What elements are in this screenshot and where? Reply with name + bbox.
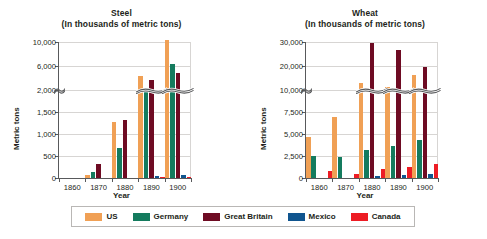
- legend-label: Canada: [372, 212, 401, 221]
- y-tick-label: 0: [52, 174, 56, 183]
- chart-page: Steel (In thousands of metric tons) Metr…: [0, 0, 487, 239]
- y-tick-label: 7,500: [284, 108, 303, 117]
- x-tick-mark: [306, 178, 307, 182]
- y-tick-label: 1,500: [37, 108, 56, 117]
- x-tick-mark: [59, 178, 60, 182]
- bar-mexico[interactable]: [181, 175, 186, 178]
- y-tick-label: 10,000: [33, 38, 56, 47]
- chart-title-steel: Steel (In thousands of metric tons): [0, 8, 243, 30]
- x-tick-mark: [85, 178, 86, 182]
- chart-legend: USGermanyGreat BritainMexicoCanada: [71, 206, 415, 227]
- legend-item-us[interactable]: US: [85, 212, 117, 221]
- y-tick-label: 6,000: [37, 62, 56, 71]
- x-tick-mark: [438, 178, 439, 182]
- legend-label: US: [106, 212, 117, 221]
- chart-title-wheat-line1: Wheat: [352, 8, 378, 18]
- legend-item-mexico[interactable]: Mexico: [288, 212, 336, 221]
- legend-item-germany[interactable]: Germany: [133, 212, 189, 221]
- y-tick-label: 1,000: [37, 130, 56, 139]
- y-tick-label: 30,000: [280, 38, 303, 47]
- bar-germany[interactable]: [417, 140, 422, 178]
- legend-swatch: [85, 213, 102, 221]
- bar-axis-break-icon: [162, 87, 194, 94]
- bar-us[interactable]: [165, 40, 170, 178]
- x-tick-mark: [359, 178, 360, 182]
- y-tick-label: 2,500: [284, 152, 303, 161]
- x-axis-label-steel: Year: [0, 191, 243, 200]
- x-tick-mark: [138, 178, 139, 182]
- y-tick-label: 20,000: [280, 62, 303, 71]
- y-axis-label-wheat: Metric tons: [259, 107, 268, 150]
- x-axis-label-wheat: Year: [243, 191, 487, 200]
- bar-great_britain[interactable]: [423, 67, 428, 178]
- legend-swatch: [133, 213, 150, 221]
- legend-item-canada[interactable]: Canada: [351, 212, 401, 221]
- legend-label: Great Britain: [224, 212, 272, 221]
- y-tick-label: 5,000: [284, 130, 303, 139]
- chart-title-steel-line2: (In thousands of metric tons): [0, 19, 243, 30]
- y-axis-label-steel: Metric tons: [12, 107, 21, 150]
- legend-swatch: [288, 213, 305, 221]
- bar-axis-break-icon: [409, 87, 441, 94]
- bar-germany[interactable]: [170, 64, 175, 178]
- bar-mexico[interactable]: [428, 174, 433, 178]
- bar-canada[interactable]: [434, 164, 439, 178]
- chart-title-wheat: Wheat (In thousands of metric tons): [243, 8, 487, 30]
- legend-label: Mexico: [309, 212, 336, 221]
- x-tick-mark: [191, 178, 192, 182]
- bar-group: [59, 42, 191, 178]
- y-tick-label: 10,000: [280, 86, 303, 95]
- x-tick-mark: [112, 178, 113, 182]
- x-tick-mark: [332, 178, 333, 182]
- x-tick-mark: [385, 178, 386, 182]
- legend-swatch: [351, 213, 368, 221]
- legend-item-great-britain[interactable]: Great Britain: [203, 212, 272, 221]
- chart-panel-wheat: Wheat (In thousands of metric tons) Metr…: [243, 0, 487, 205]
- x-tick-mark: [165, 178, 166, 182]
- legend-swatch: [203, 213, 220, 221]
- y-tick-label: 0: [299, 174, 303, 183]
- bar-group: [306, 42, 438, 178]
- chart-title-wheat-line2: (In thousands of metric tons): [243, 19, 487, 30]
- x-tick-mark: [412, 178, 413, 182]
- chart-panel-steel: Steel (In thousands of metric tons) Metr…: [0, 0, 243, 205]
- legend-label: Germany: [154, 212, 189, 221]
- y-tick-label: 500: [43, 152, 56, 161]
- plot-area-wheat: 02,5005,0007,50010,00020,00030,000186018…: [305, 42, 438, 179]
- chart-title-steel-line1: Steel: [111, 8, 132, 18]
- plot-area-steel: 05001,0001,5002,0006,00010,0001860187018…: [58, 42, 191, 179]
